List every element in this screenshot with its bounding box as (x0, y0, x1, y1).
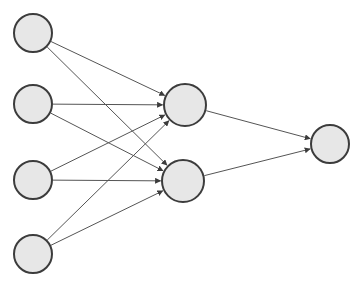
node-i4[interactable] (14, 235, 52, 273)
node-h1[interactable] (164, 84, 206, 126)
edge-h1-to-o1 (206, 111, 310, 139)
edge-h2-to-o1 (204, 149, 310, 176)
edge-i2-to-h1 (53, 104, 163, 105)
nodes-group (14, 14, 349, 273)
node-circle-h2[interactable] (162, 160, 204, 202)
node-circle-i4[interactable] (14, 235, 52, 273)
node-circle-i2[interactable] (14, 85, 52, 123)
edges-group (47, 42, 310, 246)
node-circle-h1[interactable] (164, 84, 206, 126)
node-o1[interactable] (311, 125, 349, 163)
node-circle-i3[interactable] (14, 161, 52, 199)
edge-i2-to-h2 (51, 113, 163, 171)
node-i2[interactable] (14, 85, 52, 123)
edge-i1-to-h1 (51, 42, 165, 96)
neural-network-diagram (0, 0, 363, 293)
edge-i1-to-h2 (47, 47, 167, 165)
network-graph-canvas (0, 0, 363, 293)
node-i1[interactable] (14, 14, 52, 52)
node-i3[interactable] (14, 161, 52, 199)
edge-i4-to-h2 (51, 191, 163, 245)
node-circle-i1[interactable] (14, 14, 52, 52)
edge-i3-to-h2 (53, 180, 161, 181)
node-h2[interactable] (162, 160, 204, 202)
node-circle-o1[interactable] (311, 125, 349, 163)
